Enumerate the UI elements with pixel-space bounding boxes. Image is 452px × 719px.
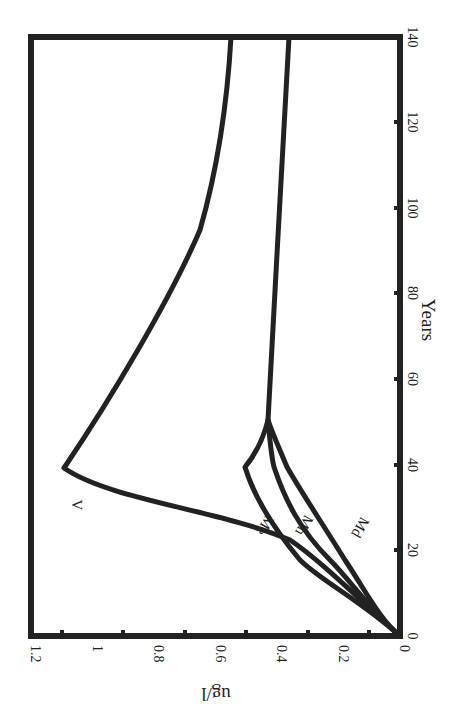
x-tick-60: 60 (405, 372, 420, 386)
series-Md-label: Md (348, 514, 373, 540)
y-tick-0.2: 0.2 (336, 645, 351, 663)
x-tick-labels: 0 20 40 60 80 100 120 140 (405, 27, 420, 640)
x-tick-120: 120 (405, 112, 420, 133)
y-axis-title: ug/l (201, 684, 231, 705)
series-Me-line (245, 37, 400, 636)
x-tick-20: 20 (405, 543, 420, 557)
x-tick-100: 100 (405, 198, 420, 219)
series-V-line (64, 37, 400, 636)
plot-frame (31, 37, 400, 636)
series-V-label: V (69, 500, 85, 511)
x-tick-0: 0 (405, 633, 420, 640)
x-axis-title: Years (418, 299, 439, 341)
y-tick-1.2: 1.2 (28, 645, 43, 663)
y-tick-0.4: 0.4 (274, 645, 289, 663)
y-tick-0.8: 0.8 (151, 645, 166, 663)
x-tick-80: 80 (405, 286, 420, 300)
y-tick-0: 0 (397, 645, 412, 652)
y-tick-1: 1 (90, 645, 105, 652)
y-tick-0.6: 0.6 (213, 645, 228, 663)
series-Md-line (268, 420, 400, 636)
x-tick-140: 140 (405, 27, 420, 48)
y-tick-labels: 0 0.2 0.4 0.6 0.8 1 1.2 (28, 645, 412, 663)
series-Mn-line (268, 420, 400, 636)
chart: 0 20 40 60 80 100 120 140 Years 0 0.2 0.… (0, 0, 452, 719)
plot-area (64, 37, 400, 636)
x-tick-40: 40 (405, 458, 420, 472)
